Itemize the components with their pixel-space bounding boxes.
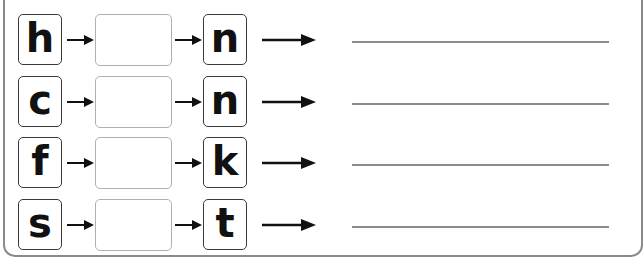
end-letter-box: t	[203, 199, 247, 250]
end-letter-box: n	[203, 76, 247, 127]
word-row-4: s t	[0, 199, 609, 251]
answer-line[interactable]	[352, 103, 609, 105]
missing-letter-input[interactable]	[95, 199, 172, 251]
arrow-right-icon	[65, 219, 95, 231]
arrow-right-icon	[173, 34, 203, 46]
answer-line[interactable]	[352, 226, 609, 228]
end-letter: n	[211, 18, 239, 58]
start-letter: f	[31, 141, 48, 181]
end-letter-box: n	[203, 14, 247, 65]
end-letter-box: k	[203, 137, 247, 188]
arrow-right-icon	[173, 219, 203, 231]
start-letter-box: c	[18, 76, 62, 127]
start-letter: h	[26, 18, 54, 58]
answer-line[interactable]	[352, 164, 609, 166]
start-letter: s	[28, 203, 52, 243]
start-letter-box: h	[18, 14, 62, 65]
long-arrow-right-icon	[261, 157, 317, 169]
start-letter: c	[28, 80, 52, 120]
word-row-1: h n	[0, 14, 609, 66]
long-arrow-right-icon	[261, 34, 317, 46]
word-row-3: f k	[0, 137, 609, 189]
long-arrow-right-icon	[261, 219, 317, 231]
arrow-right-icon	[173, 96, 203, 108]
long-arrow-right-icon	[261, 96, 317, 108]
end-letter: k	[212, 141, 239, 181]
arrow-right-icon	[65, 96, 95, 108]
arrow-right-icon	[65, 157, 95, 169]
missing-letter-input[interactable]	[95, 14, 172, 66]
arrow-right-icon	[65, 34, 95, 46]
answer-line[interactable]	[352, 41, 609, 43]
end-letter: t	[215, 203, 234, 243]
word-row-2: c n	[0, 76, 609, 128]
end-letter: n	[211, 80, 239, 120]
start-letter-box: f	[18, 137, 62, 188]
arrow-right-icon	[173, 157, 203, 169]
missing-letter-input[interactable]	[95, 76, 172, 128]
missing-letter-input[interactable]	[95, 137, 172, 189]
start-letter-box: s	[18, 199, 62, 250]
